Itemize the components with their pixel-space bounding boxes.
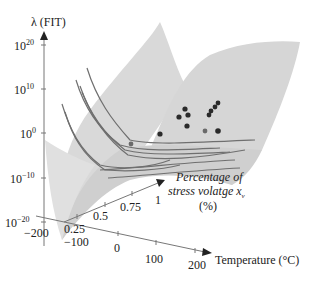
svg-text:−200: −200	[24, 226, 49, 240]
surface-plot: λ (FIT) 1020 1010 100 10−10 10−20 −200 −…	[0, 0, 314, 285]
svg-text:1010: 1010	[14, 82, 34, 97]
x-axis-arrow-icon	[202, 248, 212, 256]
z-axis-arrow-icon	[40, 31, 48, 40]
svg-text:200: 200	[188, 258, 206, 272]
svg-text:0.25: 0.25	[64, 222, 85, 236]
svg-text:100: 100	[145, 252, 163, 266]
svg-text:(%): (%)	[199, 199, 217, 213]
svg-text:10−10: 10−10	[10, 171, 35, 186]
svg-text:Percentage of: Percentage of	[175, 170, 244, 184]
z-axis-label: λ (FIT)	[31, 15, 66, 29]
chart-figure: λ (FIT) 1020 1010 100 10−10 10−20 −200 −…	[0, 0, 314, 285]
z-tick-labels: 1020 1010 100 10−10 10−20	[5, 38, 36, 230]
svg-text:1020: 1020	[14, 38, 34, 53]
svg-text:0.75: 0.75	[120, 200, 141, 214]
svg-text:0.5: 0.5	[93, 209, 108, 223]
svg-text:stress volatge xv: stress volatge xv	[168, 184, 246, 200]
svg-text:0: 0	[114, 241, 120, 255]
svg-text:−100: −100	[64, 235, 89, 249]
y-axis-label: Percentage of stress volatge xv (%)	[168, 170, 246, 213]
svg-text:1: 1	[155, 193, 161, 207]
svg-text:100: 100	[20, 126, 36, 141]
x-axis-label: Temperature (°C)	[215, 253, 299, 267]
